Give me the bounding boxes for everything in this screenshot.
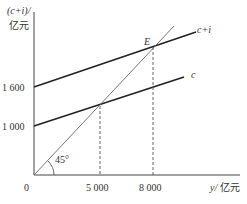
- angle-label-45: 45°: [55, 154, 69, 165]
- series-line-c: [34, 77, 184, 126]
- x-axis-label-var: y/: [209, 182, 218, 193]
- angle-arc-45: [48, 161, 54, 175]
- equilibrium-label-e: E: [143, 36, 150, 47]
- origin-label: 0: [24, 182, 29, 193]
- series-label-c: c: [191, 69, 196, 80]
- series-line-c-plus-i: [34, 32, 196, 87]
- y-axis-label-unit: 亿元: [9, 19, 29, 31]
- x-tick-label: 5 000: [86, 182, 109, 193]
- series-label-c-plus-i: c+i: [197, 24, 211, 35]
- y-tick-label: 1 000: [2, 121, 25, 132]
- x-axis-label-unit: 亿元: [220, 181, 240, 193]
- x-tick-label: 8 000: [139, 182, 162, 193]
- y-tick-label: 1 600: [2, 82, 25, 93]
- keynesian-cross-chart: 1 0001 6005 0008 000c+icE45° (c+i)/ 亿元 y…: [0, 0, 247, 204]
- y-axis-label-var: (c+i)/: [7, 5, 32, 17]
